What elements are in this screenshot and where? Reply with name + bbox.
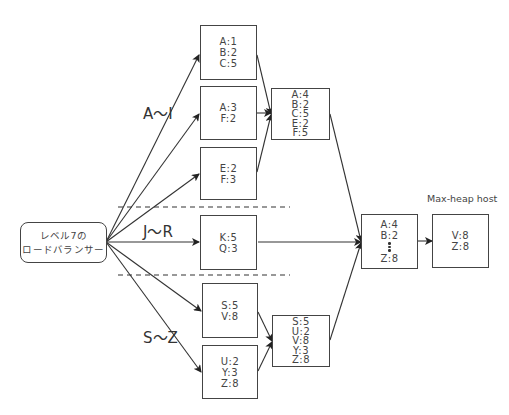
shard-node-2: A:3 F:2 (200, 86, 257, 140)
load-balancer-line1: レベル7の (40, 229, 88, 243)
shard-entry: A:3 (220, 102, 238, 113)
shard-entry: Z:8 (221, 378, 239, 389)
shard-entry: Q:3 (219, 243, 238, 254)
shard-entry: B:2 (219, 47, 237, 58)
range-label-s-z: S〜Z (143, 326, 178, 347)
load-balancer-node: レベル7の ロードバランサー (20, 222, 107, 263)
shard-entry: U:2 (221, 356, 240, 367)
shard-entry: E:2 (220, 163, 238, 174)
max-heap-label: Max-heap host (427, 193, 497, 204)
aggregate-entry-first: A:4 (381, 219, 399, 230)
load-balancer-line2: ロードバランサー (22, 243, 104, 257)
shard-entry: V:8 (221, 311, 238, 322)
shard-node-6: U:2 Y:3 Z:8 (202, 345, 258, 399)
heap-entry: Z:8 (451, 241, 469, 252)
shard-node-3: E:2 F:3 (200, 147, 257, 200)
shard-entry: C:5 (219, 58, 237, 69)
shard-entry: A:1 (220, 36, 238, 47)
range-label-a-i: A〜I (143, 102, 173, 123)
shard-entry: F:3 (220, 174, 236, 185)
merge-node-s-z: S:5 U:2 V:8 Y:3 Z:8 (272, 315, 330, 367)
heap-entry: V:8 (452, 230, 469, 241)
merge-entry: F:5 (292, 128, 308, 138)
shard-entry: K:5 (220, 232, 238, 243)
merge-node-a-i: A:4 B:2 C:5 E:2 F:5 (271, 88, 330, 140)
shard-node-4: K:5 Q:3 (200, 215, 257, 270)
range-label-j-r: J〜R (143, 220, 173, 241)
aggregate-entry-last: Z:8 (380, 253, 398, 264)
merge-entry: Z:8 (292, 355, 310, 365)
shard-entry: Y:3 (222, 367, 238, 378)
shard-entry: S:5 (221, 300, 239, 311)
max-heap-node: V:8 Z:8 (432, 214, 489, 268)
shard-node-5: S:5 V:8 (202, 283, 258, 338)
ellipsis-dots-icon (388, 242, 391, 252)
shard-node-1: A:1 B:2 C:5 (200, 25, 257, 80)
shard-entry: F:2 (220, 113, 236, 124)
aggregate-entry-second: B:2 (380, 230, 398, 241)
aggregate-node: A:4 B:2 Z:8 (361, 214, 418, 269)
